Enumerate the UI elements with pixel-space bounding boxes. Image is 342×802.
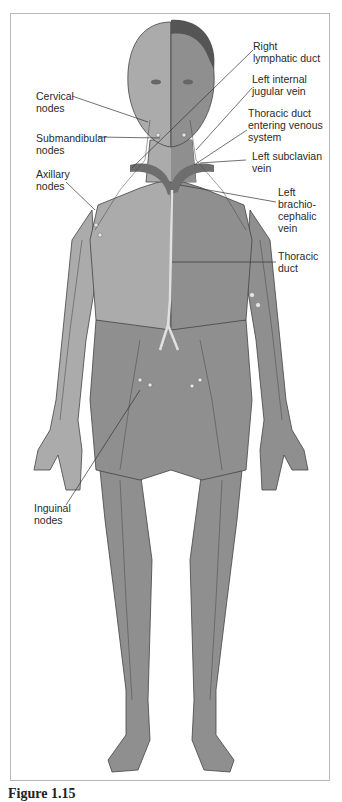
label-cervical-nodes: Cervical nodes bbox=[36, 90, 74, 114]
label-thoracic-duct-entering-venous-system: Thoracic duct entering venous system bbox=[248, 107, 323, 143]
right-leg bbox=[190, 470, 242, 772]
left-leg bbox=[100, 470, 152, 772]
label-left-subclavian-vein: Left subclavian vein bbox=[252, 150, 322, 174]
label-inguinal-nodes: Inguinal nodes bbox=[34, 502, 71, 526]
right-arm bbox=[34, 210, 96, 490]
figure-caption: Figure 1.15 bbox=[8, 786, 75, 802]
label-thoracic-duct: Thoracic duct bbox=[278, 250, 318, 274]
chest-left bbox=[171, 178, 252, 330]
label-right-lymphatic-duct: Right lymphatic duct bbox=[253, 40, 320, 64]
label-left-brachiocephalic-vein: Left brachio- cephalic vein bbox=[278, 186, 317, 234]
label-left-internal-jugular-vein: Left internal jugular vein bbox=[252, 73, 307, 97]
abdomen bbox=[90, 320, 252, 480]
label-axillary-nodes: Axillary nodes bbox=[36, 168, 70, 192]
label-submandibular-nodes: Submandibular nodes bbox=[36, 132, 107, 156]
head-right bbox=[128, 22, 171, 147]
chest-right bbox=[90, 178, 171, 330]
